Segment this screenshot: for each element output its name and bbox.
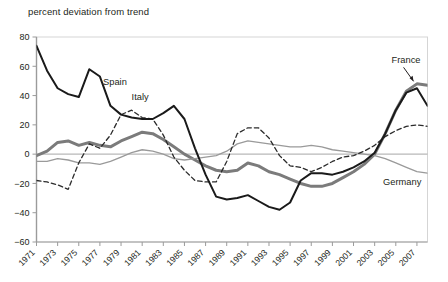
y-tick-label: 60 (19, 62, 29, 72)
x-tick-label: 1973 (37, 247, 58, 268)
x-tick-label: 1979 (101, 247, 122, 268)
x-tick-label: 1991 (228, 247, 249, 268)
x-tick-label: 1977 (80, 247, 101, 268)
line-chart-svg: 806040200−20−40−601971197319751977197919… (0, 0, 448, 282)
x-tick-label: 1993 (249, 247, 270, 268)
chart-figure: percent deviation from trend 806040200−2… (0, 0, 448, 282)
series-label-france: France (392, 55, 421, 65)
x-tick-label: 1971 (16, 247, 37, 268)
y-tick-label: −20 (14, 179, 29, 189)
series-label-germany: Germany (383, 177, 422, 187)
series-label-spain: Spain (103, 77, 127, 87)
x-tick-label: 1983 (143, 247, 164, 268)
plot-frame (37, 37, 428, 242)
y-tick-label: 0 (24, 149, 29, 159)
series-label-italy: Italy (132, 92, 149, 102)
x-tick-label: 1989 (207, 247, 228, 268)
y-tick-label: 40 (19, 91, 29, 101)
x-tick-label: 1995 (270, 247, 291, 268)
x-tick-label: 2001 (333, 247, 354, 268)
series-group (37, 46, 428, 210)
x-tick-label: 1997 (291, 247, 312, 268)
series-line-italy (37, 110, 428, 189)
y-tick-label: −40 (14, 208, 29, 218)
y-tick-label: 80 (19, 32, 29, 42)
y-tick-label: 20 (19, 120, 29, 130)
x-tick-label: 1987 (185, 247, 206, 268)
x-tick-label: 2003 (354, 247, 375, 268)
x-tick-label: 1999 (312, 247, 333, 268)
series-line-france (37, 84, 428, 187)
y-tick-label: −60 (14, 237, 29, 247)
x-tick-label: 1981 (122, 247, 143, 268)
x-tick-label: 2007 (397, 247, 418, 268)
x-tick-label: 1975 (59, 247, 80, 268)
x-tick-label: 2005 (376, 247, 397, 268)
x-tick-label: 1985 (164, 247, 185, 268)
series-line-spain (37, 46, 428, 210)
